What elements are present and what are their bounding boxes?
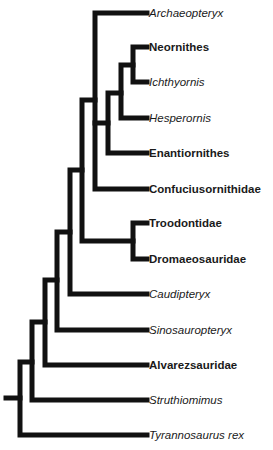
taxon-label-hesperornis: Hesperornis bbox=[149, 111, 211, 125]
taxon-label-archaeopteryx: Archaeopteryx bbox=[149, 6, 223, 20]
taxon-label-struthiomimus: Struthiomimus bbox=[149, 393, 223, 407]
taxon-label-tyrannosaurus-rex: Tyrannosaurus rex bbox=[149, 428, 244, 442]
taxon-label-troodontidae: Troodontidae bbox=[149, 216, 222, 230]
taxon-label-ichthyornis: Ichthyornis bbox=[149, 75, 205, 89]
node-b bbox=[32, 322, 147, 400]
taxon-label-dromaeosauridae: Dromaeosauridae bbox=[149, 252, 246, 266]
taxon-label-neornithes: Neornithes bbox=[149, 40, 209, 54]
cladogram-tree bbox=[0, 0, 273, 450]
node-deinonychosauria bbox=[133, 223, 147, 259]
taxon-label-alvarezsauridae: Alvarezsauridae bbox=[149, 358, 237, 372]
taxon-label-sinosauropteryx: Sinosauropteryx bbox=[149, 323, 232, 337]
taxon-label-enantiornithes: Enantiornithes bbox=[149, 146, 230, 160]
node-ornithothoraces bbox=[108, 93, 147, 153]
node-carinatae bbox=[133, 47, 147, 82]
taxon-label-confuciusornithidae: Confuciusornithidae bbox=[149, 182, 261, 196]
taxon-label-caudipteryx: Caudipteryx bbox=[149, 287, 210, 301]
